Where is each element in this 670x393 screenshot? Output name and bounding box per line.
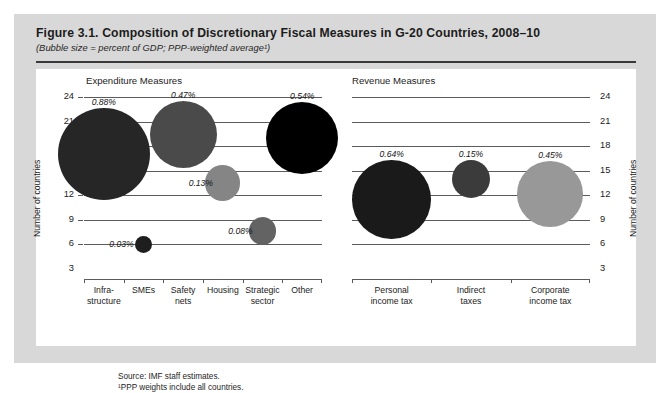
y-axis-tick-label: 15: [600, 166, 622, 175]
figure-panel: Figure 3.1. Composition of Discretionary…: [14, 14, 656, 363]
chart-title-expenditure: Expenditure Measures: [86, 75, 182, 86]
y-axis-tick-label: 24: [52, 92, 74, 101]
x-axis-category-label: Personalincome tax: [348, 285, 435, 306]
bubble-value-label: 0.03%: [106, 239, 138, 249]
bubble-value-label: 0.15%: [455, 149, 487, 159]
x-axis-category-label-line: Personal: [348, 285, 435, 296]
x-axis-category-label: Corporateincome tax: [507, 285, 594, 306]
gridline: [352, 146, 590, 147]
x-axis-category-label-line: structure: [80, 296, 128, 307]
x-axis-category-label-line: Corporate: [507, 285, 594, 296]
footnote-line: ¹PPP weights include all countries.: [118, 382, 243, 393]
bubble-value-label: 0.88%: [88, 97, 120, 107]
y-axis-tick-label: 24: [600, 92, 622, 101]
x-axis-tick-mark: [431, 279, 432, 283]
x-axis-end-cap: [321, 279, 322, 283]
chart-title-revenue: Revenue Measures: [352, 75, 435, 86]
bubble-value-label: 0.64%: [376, 149, 408, 159]
y-axis-tick-label: 12: [52, 190, 74, 199]
gridline: [352, 97, 590, 98]
y-axis-tick-label: 21: [600, 117, 622, 126]
y-axis-tick-mark: [78, 220, 83, 221]
x-axis-category-label-line: nets: [159, 296, 207, 307]
y-axis-tick-mark: [78, 244, 83, 245]
bubble-value-label: 0.54%: [286, 91, 318, 101]
x-axis-tick-mark: [282, 279, 283, 283]
plot-card: Expenditure Measures 2421181512963Number…: [36, 69, 636, 346]
data-bubble: [452, 160, 490, 198]
y-axis-tick-label: 6: [600, 239, 622, 248]
plot-area-revenue: 2421181512963Number of countriesPersonal…: [352, 97, 590, 269]
y-axis-tick-label: 6: [52, 239, 74, 248]
x-axis-end-cap: [84, 279, 85, 283]
title-divider: [36, 61, 636, 63]
source-line: Source: IMF staff estimates.: [118, 371, 243, 382]
x-axis-category-label: Indirecttaxes: [427, 285, 514, 306]
y-axis-tick-label: 9: [52, 215, 74, 224]
x-axis-category-label-line: income tax: [348, 296, 435, 307]
data-bubble: [352, 160, 430, 238]
x-axis-category-label-line: taxes: [427, 296, 514, 307]
data-bubble: [517, 161, 583, 227]
source-notes: Source: IMF staff estimates. ¹PPP weight…: [118, 371, 243, 393]
x-axis-category-label-line: Indirect: [427, 285, 514, 296]
bubble-value-label: 0.47%: [167, 90, 199, 100]
y-axis-tick-label: 12: [600, 190, 622, 199]
x-axis-end-cap: [589, 279, 590, 283]
x-axis-category-label-line: sector: [239, 296, 287, 307]
figure-frame: Figure 3.1. Composition of Discretionary…: [14, 14, 656, 363]
gridline: [352, 244, 590, 245]
chart-panel-expenditure: Expenditure Measures 2421181512963Number…: [46, 69, 336, 301]
y-axis-title: Number of countries: [628, 160, 638, 237]
gridline: [352, 122, 590, 123]
figure-subtitle: (Bubble size = percent of GDP; PPP-weigh…: [36, 42, 636, 53]
x-axis-line: [352, 279, 590, 280]
y-axis-tick-label: 18: [600, 141, 622, 150]
x-axis-tick-mark: [511, 279, 512, 283]
y-axis-tick-label: 3: [52, 264, 74, 273]
chart-panel-revenue: Revenue Measures 2421181512963Number of …: [348, 69, 630, 301]
title-block: Figure 3.1. Composition of Discretionary…: [36, 26, 636, 53]
x-axis-end-cap: [352, 279, 353, 283]
figure-title: Figure 3.1. Composition of Discretionary…: [36, 26, 636, 40]
y-axis-tick-mark: [78, 195, 83, 196]
gridline: [84, 220, 322, 221]
y-axis-tick-label: 9: [600, 215, 622, 224]
y-axis-tick-label: 3: [600, 264, 622, 273]
bubble-value-label: 0.45%: [534, 150, 566, 160]
x-axis-tick-mark: [203, 279, 204, 283]
x-axis-category-label-line: income tax: [507, 296, 594, 307]
data-bubble: [266, 102, 338, 174]
bubble-value-label: 0.08%: [225, 226, 257, 236]
data-bubble: [135, 236, 152, 253]
x-axis-tick-mark: [243, 279, 244, 283]
x-axis-tick-mark: [163, 279, 164, 283]
bubble-value-label: 0.13%: [185, 178, 217, 188]
y-axis-title: Number of countries: [32, 160, 42, 237]
data-bubble: [150, 101, 217, 168]
y-axis-tick-mark: [78, 97, 83, 98]
x-axis-category-label: Other: [278, 285, 326, 296]
data-bubble: [58, 108, 150, 200]
x-axis-tick-mark: [124, 279, 125, 283]
x-axis-category-label-line: Other: [278, 285, 326, 296]
plot-area-expenditure: 2421181512963Number of countriesInfra-st…: [84, 97, 322, 269]
